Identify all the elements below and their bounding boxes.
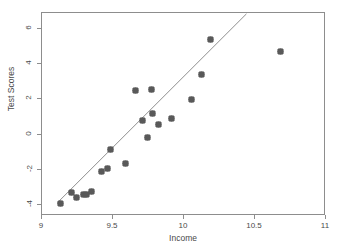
x-tick [254,215,255,219]
y-tick-label: 4 [26,58,30,67]
x-tick [325,215,326,219]
plot-area [42,13,324,214]
data-point [122,160,129,167]
data-point [132,87,139,94]
x-tick-label: 11 [321,221,329,231]
x-tick [112,215,113,219]
data-point [207,36,214,43]
data-point [188,96,195,103]
x-tick-label: 10.5 [246,221,262,231]
data-point [104,165,111,172]
x-tick [183,215,184,219]
y-tick-label: 6 [26,23,30,32]
data-point [148,86,155,93]
data-point [155,121,162,128]
data-point [139,117,146,124]
y-tick [37,169,41,170]
data-point [149,110,156,117]
x-tick [41,215,42,219]
data-point [277,48,284,55]
data-point [107,146,114,153]
data-point [57,200,64,207]
data-point [168,115,175,122]
y-tick [37,98,41,99]
y-tick-label: -4 [26,199,33,208]
fit-line [42,13,324,214]
y-tick-label: -2 [26,164,33,173]
y-tick [37,204,41,205]
y-axis-label: Test Scores [6,59,16,119]
y-tick [37,134,41,135]
x-axis-label: Income [41,233,325,243]
data-point [88,188,95,195]
scatter-chart: 99.51010.511 6420-2-4 Income Test Scores [0,0,342,250]
plot-frame [41,12,325,215]
data-point [197,71,204,78]
x-tick-label: 10 [179,221,188,231]
x-tick-label: 9 [39,221,43,231]
data-point [73,194,80,201]
data-point [144,134,151,141]
y-tick-label: 0 [26,129,30,138]
y-tick-label: 2 [26,93,30,102]
y-tick [37,28,41,29]
x-tick-label: 9.5 [106,221,117,231]
y-tick [37,63,41,64]
